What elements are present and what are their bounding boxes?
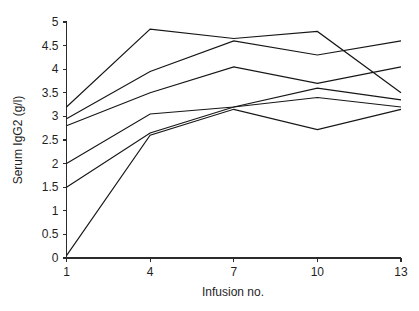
x-tick-label: 13 xyxy=(394,265,408,279)
y-tick-label: 3.5 xyxy=(42,86,59,100)
y-tick-label: 0.5 xyxy=(42,227,59,241)
x-tick-label: 10 xyxy=(311,265,325,279)
x-axis-tick-labels: 1471013 xyxy=(63,265,408,279)
data-series-line xyxy=(67,109,402,255)
line-chart-plot: 00.511.522.533.544.55 1471013 Infusion n… xyxy=(0,0,419,311)
y-tick-label: 4 xyxy=(52,62,59,76)
data-series-line xyxy=(67,88,402,164)
y-tick-label: 1.5 xyxy=(42,180,59,194)
y-tick-label: 2.5 xyxy=(42,133,59,147)
data-series-group xyxy=(67,29,402,256)
y-tick-label: 5 xyxy=(52,15,59,29)
x-tick-label: 4 xyxy=(147,265,154,279)
x-axis-title: Infusion no. xyxy=(202,285,264,299)
data-series-line xyxy=(67,98,402,188)
x-tick-label: 1 xyxy=(63,265,70,279)
x-axis-tick-marks xyxy=(67,258,402,262)
y-axis-tick-marks xyxy=(63,22,67,258)
y-tick-label: 4.5 xyxy=(42,39,59,53)
data-series-line xyxy=(67,67,402,126)
y-axis-tick-labels: 00.511.522.533.544.55 xyxy=(42,15,59,265)
y-axis-title: Serum IgG2 (g/l) xyxy=(11,96,25,185)
chart-figure: 00.511.522.533.544.55 1471013 Infusion n… xyxy=(0,0,419,311)
y-tick-label: 2 xyxy=(52,157,59,171)
y-tick-label: 0 xyxy=(52,251,59,265)
x-tick-label: 7 xyxy=(230,265,237,279)
y-tick-label: 3 xyxy=(52,109,59,123)
y-tick-label: 1 xyxy=(52,204,59,218)
